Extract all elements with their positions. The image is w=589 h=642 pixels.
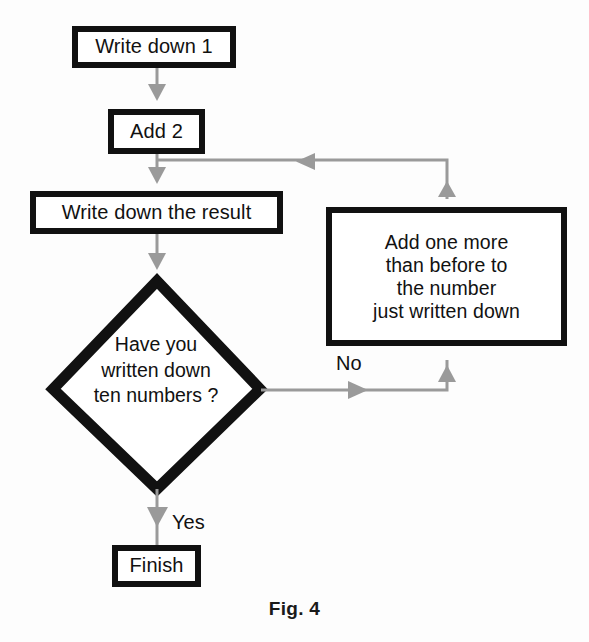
edge-decision-yes	[147, 489, 168, 546]
node-write-down-the-result: Write down the result	[30, 191, 283, 234]
node-add-2: Add 2	[108, 109, 205, 154]
edge-start-to-add2	[148, 68, 166, 101]
node-write-down-1-label: Write down 1	[78, 33, 230, 61]
edge-write-result-to-decision	[148, 234, 166, 270]
node-finish: Finish	[112, 545, 201, 587]
node-decision-label: Have you written down ten numbers ?	[72, 332, 240, 409]
node-write-down-the-result-label: Write down the result	[36, 199, 277, 227]
node-write-down-1: Write down 1	[72, 26, 236, 68]
flowchart-figure: Write down 1 Add 2 Write down the result…	[0, 0, 589, 642]
edge-label-no: No	[336, 353, 362, 373]
edge-label-yes: Yes	[172, 512, 205, 532]
node-finish-label: Finish	[118, 552, 195, 580]
node-add-one-more-label: Add one more than before to the number j…	[332, 229, 561, 325]
node-add-one-more: Add one more than before to the number j…	[326, 207, 567, 346]
node-add-2-label: Add 2	[114, 118, 199, 146]
figure-caption: Fig. 4	[0, 598, 589, 620]
